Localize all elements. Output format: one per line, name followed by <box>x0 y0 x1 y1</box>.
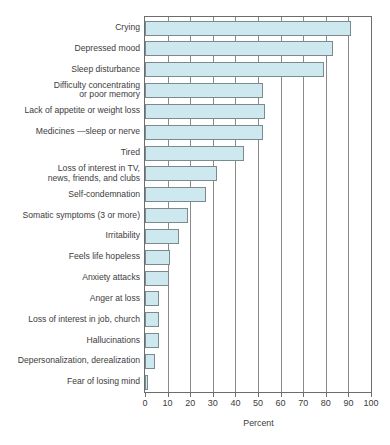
x-tick-label: 40 <box>230 398 240 408</box>
bar-row <box>145 206 371 227</box>
category-label-line: Feels life hopeless <box>0 252 140 262</box>
x-tick-label: 70 <box>298 398 308 408</box>
category-label: Difficulty concentratingor poor memory <box>0 81 140 100</box>
category-label-line: Crying <box>0 23 140 33</box>
category-label-line: Anxiety attacks <box>0 273 140 283</box>
category-label-line: Fear of losing mind <box>0 377 140 387</box>
bar-row <box>145 352 371 373</box>
x-tick <box>235 393 236 397</box>
bar <box>145 125 263 140</box>
bar-row <box>145 185 371 206</box>
bar <box>145 41 333 56</box>
bar <box>145 83 263 98</box>
bar-row <box>145 81 371 102</box>
x-tick <box>326 393 327 397</box>
bar-row <box>145 248 371 269</box>
bar <box>145 229 179 244</box>
bar-row <box>145 144 371 165</box>
category-axis-labels: CryingDepressed moodSleep disturbanceDif… <box>0 16 140 393</box>
x-tick <box>190 393 191 397</box>
bar-row <box>145 102 371 123</box>
category-label-line: Sleep disturbance <box>0 65 140 75</box>
x-tick-label: 0 <box>142 398 147 408</box>
bar-row <box>145 19 371 40</box>
category-label: Hallucinations <box>0 336 140 346</box>
x-tick <box>303 393 304 397</box>
x-tick-label: 60 <box>276 398 286 408</box>
x-tick <box>168 393 169 397</box>
bar-row <box>145 310 371 331</box>
plot-area <box>144 16 372 393</box>
bar <box>145 250 170 265</box>
category-label: Fear of losing mind <box>0 377 140 387</box>
x-tick-label: 20 <box>185 398 195 408</box>
bar <box>145 375 148 390</box>
x-tick-label: 10 <box>163 398 173 408</box>
category-label: Medicines —sleep or nerve <box>0 127 140 137</box>
x-tick <box>258 393 259 397</box>
category-label: Sleep disturbance <box>0 65 140 75</box>
category-label-line: Lack of appetite or weight loss <box>0 106 140 116</box>
category-label-line: Medicines —sleep or nerve <box>0 127 140 137</box>
bar <box>145 146 244 161</box>
bar <box>145 208 188 223</box>
bar <box>145 21 351 36</box>
category-label-line: Tired <box>0 148 140 158</box>
category-label-line: Irritability <box>0 231 140 241</box>
x-axis-title: Percent <box>144 418 373 428</box>
category-label-line: Hallucinations <box>0 336 140 346</box>
x-tick-label: 30 <box>208 398 218 408</box>
bar-row <box>145 227 371 248</box>
category-label: Loss of interest in job, church <box>0 315 140 325</box>
category-label: Anxiety attacks <box>0 273 140 283</box>
category-label: Self-condemnation <box>0 190 140 200</box>
bar <box>145 291 159 306</box>
bar <box>145 104 265 119</box>
x-tick-label: 90 <box>343 398 353 408</box>
category-label-line: or poor memory <box>0 90 140 100</box>
bar-row <box>145 331 371 352</box>
bar-row <box>145 123 371 144</box>
category-label: Loss of interest in TV,news, friends, an… <box>0 164 140 183</box>
x-tick <box>281 393 282 397</box>
bar-row <box>145 164 371 185</box>
bar-row <box>145 269 371 290</box>
category-label: Irritability <box>0 231 140 241</box>
bar <box>145 62 324 77</box>
x-tick-label: 50 <box>253 398 263 408</box>
category-label: Crying <box>0 23 140 33</box>
bar-series <box>145 17 371 392</box>
x-tick <box>371 393 372 397</box>
category-label: Depersonalization, derealization <box>0 356 140 366</box>
category-label-line: Loss of interest in job, church <box>0 315 140 325</box>
bar <box>145 187 206 202</box>
x-tick <box>145 393 146 397</box>
bar-chart: CryingDepressed moodSleep disturbanceDif… <box>0 0 390 445</box>
bar <box>145 166 217 181</box>
x-tick-label: 100 <box>363 398 378 408</box>
category-label: Tired <box>0 148 140 158</box>
category-label: Somatic symptoms (3 or more) <box>0 211 140 221</box>
bar <box>145 312 159 327</box>
category-label: Anger at loss <box>0 294 140 304</box>
category-label-line: Somatic symptoms (3 or more) <box>0 211 140 221</box>
x-tick-label: 80 <box>321 398 331 408</box>
bar <box>145 354 155 369</box>
category-label-line: news, friends, and clubs <box>0 174 140 184</box>
bar-row <box>145 60 371 81</box>
x-axis: 0102030405060708090100 <box>144 393 373 415</box>
category-label-line: Depersonalization, derealization <box>0 356 140 366</box>
category-label-line: Anger at loss <box>0 294 140 304</box>
category-label: Depressed mood <box>0 44 140 54</box>
category-label-line: Depressed mood <box>0 44 140 54</box>
bar-row <box>145 373 371 394</box>
category-label-line: Self-condemnation <box>0 190 140 200</box>
x-tick <box>348 393 349 397</box>
bar-row <box>145 39 371 60</box>
category-label: Feels life hopeless <box>0 252 140 262</box>
bar-row <box>145 289 371 310</box>
category-label: Lack of appetite or weight loss <box>0 106 140 116</box>
bar <box>145 271 169 286</box>
bar <box>145 333 159 348</box>
x-tick <box>213 393 214 397</box>
